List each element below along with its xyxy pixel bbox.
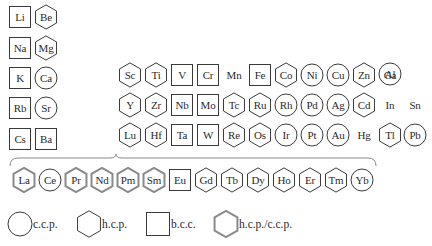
element-cs: Cs [9, 128, 31, 150]
hcp-ccp-shape-icon [214, 212, 238, 236]
element-os: Os [249, 124, 271, 146]
element-symbol: Fe [255, 70, 266, 81]
element-symbol: Pm [121, 175, 135, 186]
element-pm: Pm [117, 169, 139, 191]
element-symbol: Mn [227, 70, 242, 81]
element-symbol: Yb [355, 175, 368, 186]
element-symbol: Cd [358, 100, 370, 111]
element-symbol: Ni [307, 70, 318, 81]
legend-label: c.c.p. [33, 218, 58, 230]
element-pb: Pb [404, 124, 426, 146]
element-symbol: Tm [329, 175, 344, 186]
element-symbol: Au [331, 130, 344, 141]
element-symbol: Nd [95, 175, 108, 186]
element-k: K [9, 67, 31, 89]
element-symbol: Cu [332, 70, 344, 81]
element-symbol: Y [126, 100, 134, 111]
element-symbol: Ag [331, 100, 344, 111]
element-in: In [379, 94, 401, 116]
element-ho: Ho [273, 169, 295, 191]
element-symbol: Ga [384, 70, 396, 81]
element-sn: Sn [404, 94, 426, 116]
element-symbol: Sr [41, 103, 50, 114]
element-symbol: Hg [357, 130, 370, 141]
element-dy: Dy [247, 169, 269, 191]
legend-item-circle: c.c.p. [8, 212, 58, 236]
element-symbol: Tc [229, 100, 239, 111]
element-ta: Ta [171, 124, 193, 146]
element-ce: Ce [39, 169, 61, 191]
ccp-shape-icon [8, 212, 32, 236]
element-rb: Rb [9, 97, 31, 119]
lanthanide-brace [0, 0, 432, 246]
element-symbol: Tb [226, 175, 238, 186]
element-symbol: Lu [124, 130, 136, 141]
element-tb: Tb [221, 169, 243, 191]
element-symbol: W [203, 130, 213, 141]
element-mg: Mg [35, 37, 57, 59]
element-cd: Cd [353, 94, 375, 116]
element-na: Na [9, 37, 31, 59]
element-pt: Pt [301, 124, 323, 146]
element-symbol: Re [228, 130, 240, 141]
element-mo: Mo [197, 94, 219, 116]
bcc-shape-icon [146, 212, 170, 236]
element-symbol: Er [305, 175, 315, 186]
element-pd: Pd [301, 94, 323, 116]
element-tc: Tc [223, 94, 245, 116]
element-zn: Zn [353, 64, 375, 86]
element-la: La [13, 169, 35, 191]
element-er: Er [299, 169, 321, 191]
element-symbol: Ca [40, 73, 52, 84]
element-rh: Rh [275, 94, 297, 116]
element-y: Y [119, 94, 141, 116]
element-symbol: Zn [358, 70, 370, 81]
element-ru: Ru [249, 94, 271, 116]
element-symbol: V [178, 70, 186, 81]
element-fe: Fe [249, 64, 271, 86]
element-symbol: Rh [280, 100, 292, 111]
element-sm: Sm [143, 169, 165, 191]
element-zr: Zr [145, 94, 167, 116]
element-symbol: K [16, 73, 24, 84]
legend-label: b.c.c. [171, 218, 196, 230]
element-be: Be [35, 6, 57, 28]
hcp-shape-icon [77, 212, 101, 236]
element-gd: Gd [195, 169, 217, 191]
element-symbol: Ce [44, 175, 56, 186]
legend-item-hexagon: h.c.p. [77, 212, 127, 236]
element-symbol: Mo [201, 100, 216, 111]
element-hf: Hf [145, 124, 167, 146]
element-symbol: Be [40, 12, 52, 23]
element-symbol: Ru [254, 100, 266, 111]
element-ti: Ti [145, 64, 167, 86]
element-cr: Cr [197, 64, 219, 86]
element-symbol: Ho [277, 175, 290, 186]
element-symbol: Co [280, 70, 292, 81]
element-hg: Hg [353, 124, 375, 146]
element-lu: Lu [119, 124, 141, 146]
element-symbol: Pt [308, 130, 317, 141]
element-mn: Mn [223, 64, 245, 86]
element-v: V [171, 64, 193, 86]
element-ir: Ir [275, 124, 297, 146]
element-symbol: Tl [385, 130, 394, 141]
element-au: Au [327, 124, 349, 146]
legend-label: h.c.p./c.c.p. [239, 218, 292, 230]
element-symbol: Pd [306, 100, 317, 111]
element-nb: Nb [171, 94, 193, 116]
element-w: W [197, 124, 219, 146]
element-symbol: In [386, 100, 395, 111]
element-symbol: Sc [125, 70, 136, 81]
element-symbol: Ti [152, 70, 161, 81]
element-symbol: Ba [40, 134, 52, 145]
element-symbol: Nb [175, 100, 188, 111]
element-tm: Tm [325, 169, 347, 191]
element-sc: Sc [119, 64, 141, 86]
element-symbol: Li [15, 12, 24, 23]
element-symbol: Pr [71, 175, 80, 186]
element-ca: Ca [35, 67, 57, 89]
legend-item-square: b.c.c. [146, 212, 196, 236]
element-li: Li [9, 6, 31, 28]
element-symbol: Cr [203, 70, 214, 81]
